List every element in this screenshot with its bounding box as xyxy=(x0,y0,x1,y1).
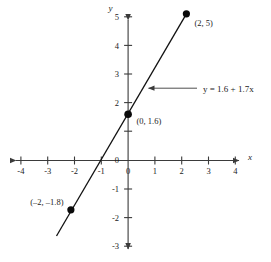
y-tick-label-3: 3 xyxy=(115,69,119,79)
label-point--2--1.8: (–2, –1.8) xyxy=(30,197,63,207)
datapoint-0-1.6 xyxy=(124,111,132,119)
y-tick-label-4: 4 xyxy=(115,41,120,51)
y-axis-label: y xyxy=(108,3,113,13)
y-tick-label--1: -1 xyxy=(112,184,119,194)
x-tick-label-4: 4 xyxy=(233,166,238,176)
x-axis xyxy=(16,157,239,165)
regression-line xyxy=(57,14,187,236)
graph-figure: -4 -3 -2 -1 0 1 2 3 4 5 4 3 2 0 -1 -2 -3… xyxy=(0,0,271,262)
datapoint-2-5 xyxy=(183,10,190,17)
label-equation: y = 1.6 + 1.7x xyxy=(203,84,254,94)
x-tick-label-2: 2 xyxy=(180,166,184,176)
coordinate-plane-svg: -4 -3 -2 -1 0 1 2 3 4 5 4 3 2 0 -1 -2 -3… xyxy=(0,0,271,262)
x-tick-label-1: 1 xyxy=(153,166,157,176)
y-tick-label--3: -3 xyxy=(112,241,119,251)
y-axis xyxy=(124,17,132,249)
caption-clipped-strip xyxy=(0,256,271,262)
x-axis-label: x xyxy=(247,152,252,162)
y-tick-label--2: -2 xyxy=(112,213,119,223)
x-tick-label-3: 3 xyxy=(206,166,210,176)
label-point-2-5: (2, 5) xyxy=(195,18,214,28)
x-tick-label--2: -2 xyxy=(71,166,78,176)
y-tick-label-2: 2 xyxy=(115,98,119,108)
x-tick-label--4: -4 xyxy=(17,166,25,176)
datapoint--2--1.8 xyxy=(67,206,74,213)
y-tick-label-0: 0 xyxy=(115,155,119,165)
y-tick-label-5: 5 xyxy=(115,12,119,22)
x-tick-label--3: -3 xyxy=(44,166,51,176)
x-tick-label-0: 0 xyxy=(126,166,130,176)
label-point-0-1.6: (0, 1.6) xyxy=(137,116,162,126)
x-tick-label--1: -1 xyxy=(98,166,105,176)
